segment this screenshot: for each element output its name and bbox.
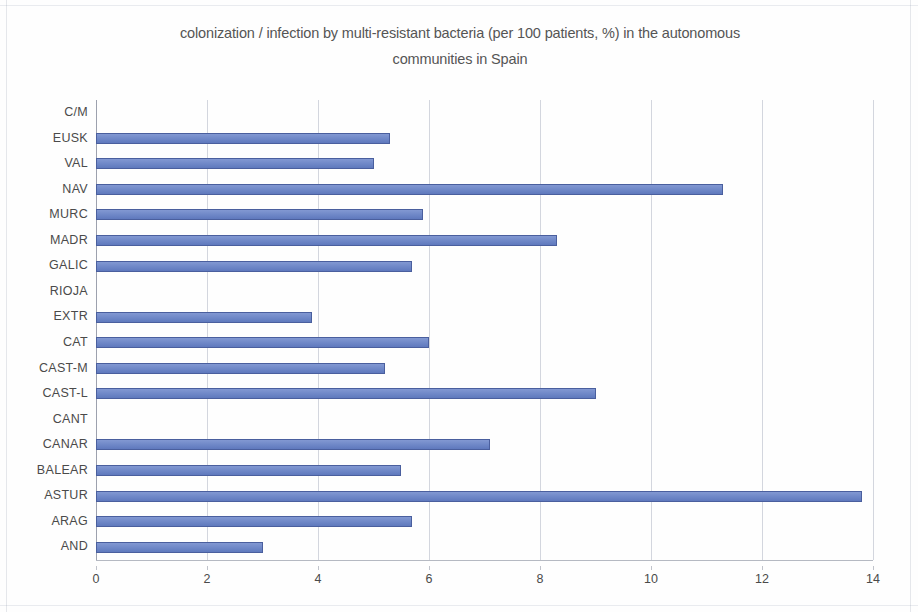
- y-axis-label-cat: CAT: [2, 330, 88, 356]
- x-axis-tick-labels: 02468101214: [96, 566, 873, 594]
- bar-row[interactable]: [96, 253, 412, 279]
- bar-cast-m[interactable]: [96, 363, 385, 374]
- x-tick-mark-6: [429, 566, 430, 570]
- bar-astur[interactable]: [96, 491, 862, 502]
- x-tick-label-0: 0: [93, 572, 100, 586]
- x-tick-mark-2: [207, 566, 208, 570]
- bar-row[interactable]: [96, 304, 312, 330]
- bar-val[interactable]: [96, 158, 374, 169]
- bar-balear[interactable]: [96, 465, 401, 476]
- bar-arag[interactable]: [96, 516, 412, 527]
- y-axis-label-canar: CANAR: [2, 432, 88, 458]
- gridline-14: [873, 100, 874, 560]
- y-axis-label-madr: MADR: [2, 228, 88, 254]
- bar-murc[interactable]: [96, 209, 423, 220]
- bar-row[interactable]: [96, 534, 263, 560]
- bar-eusk[interactable]: [96, 133, 390, 144]
- y-axis-label-c-m: C/M: [2, 100, 88, 126]
- x-tick-mark-14: [873, 566, 874, 570]
- x-tick-label-2: 2: [204, 572, 211, 586]
- y-axis-category-labels: C/MEUSKVALNAVMURCMADRGALICRIOJAEXTRCATCA…: [0, 100, 88, 560]
- x-tick-label-6: 6: [426, 572, 433, 586]
- bar-nav[interactable]: [96, 184, 723, 195]
- bar-row[interactable]: [96, 228, 557, 254]
- y-axis-label-extr: EXTR: [2, 304, 88, 330]
- bar-row[interactable]: [96, 202, 423, 228]
- bar-cat[interactable]: [96, 337, 429, 348]
- x-tick-mark-0: [96, 566, 97, 570]
- y-axis-label-murc: MURC: [2, 202, 88, 228]
- x-tick-label-8: 8: [537, 572, 544, 586]
- chart-title: colonization / infection by multi-resist…: [95, 20, 825, 72]
- y-axis-label-eusk: EUSK: [2, 126, 88, 152]
- y-axis-label-cast-m: CAST-M: [2, 356, 88, 382]
- x-tick-label-14: 14: [866, 572, 880, 586]
- x-axis-line: [96, 560, 873, 561]
- bar-row[interactable]: [96, 381, 596, 407]
- bar-row[interactable]: [96, 177, 723, 203]
- bar-galic[interactable]: [96, 261, 412, 272]
- y-axis-label-arag: ARAG: [2, 509, 88, 535]
- y-axis-label-galic: GALIC: [2, 253, 88, 279]
- x-tick-mark-10: [651, 566, 652, 570]
- x-tick-mark-4: [318, 566, 319, 570]
- y-axis-label-val: VAL: [2, 151, 88, 177]
- x-tick-mark-12: [762, 566, 763, 570]
- bar-row[interactable]: [96, 458, 401, 484]
- y-axis-label-rioja: RIOJA: [2, 279, 88, 305]
- y-axis-label-balear: BALEAR: [2, 458, 88, 484]
- y-axis-label-and: AND: [2, 534, 88, 560]
- bar-row[interactable]: [96, 432, 490, 458]
- bar-row[interactable]: [96, 151, 374, 177]
- bar-cast-l[interactable]: [96, 388, 596, 399]
- x-tick-label-10: 10: [644, 572, 658, 586]
- bar-canar[interactable]: [96, 439, 490, 450]
- plot-area: [96, 100, 873, 560]
- y-axis-label-nav: NAV: [2, 177, 88, 203]
- x-tick-label-12: 12: [755, 572, 769, 586]
- bar-row[interactable]: [96, 483, 862, 509]
- x-tick-label-4: 4: [315, 572, 322, 586]
- bar-chart: colonization / infection by multi-resist…: [0, 0, 918, 612]
- bar-row[interactable]: [96, 356, 385, 382]
- y-axis-label-astur: ASTUR: [2, 483, 88, 509]
- bar-madr[interactable]: [96, 235, 557, 246]
- bar-row[interactable]: [96, 126, 390, 152]
- x-tick-mark-8: [540, 566, 541, 570]
- bar-and[interactable]: [96, 542, 263, 553]
- bar-row[interactable]: [96, 330, 429, 356]
- bar-row[interactable]: [96, 509, 412, 535]
- y-axis-label-cast-l: CAST-L: [2, 381, 88, 407]
- bar-extr[interactable]: [96, 312, 312, 323]
- y-axis-label-cant: CANT: [2, 407, 88, 433]
